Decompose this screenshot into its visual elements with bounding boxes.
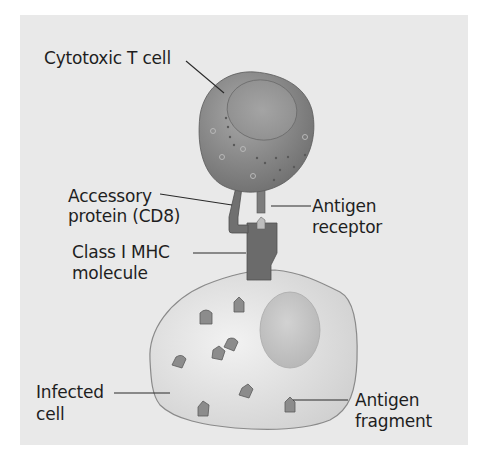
label-receptor-line2: receptor — [312, 217, 382, 238]
infected-cell — [150, 270, 357, 430]
cd8-protein — [229, 187, 248, 233]
infected-cell-nucleus — [260, 292, 320, 368]
label-mhc-line2: molecule — [72, 263, 148, 284]
label-fragment-line1: Antigen — [355, 390, 419, 411]
label-accessory-line1: Accessory — [68, 186, 152, 207]
label-fragment-line2: fragment — [355, 411, 432, 432]
cytotoxic-t-cell — [199, 72, 314, 192]
label-infected-line2: cell — [36, 404, 64, 425]
label-infected-line1: Infected — [36, 382, 104, 403]
label-accessory-line2: protein (CD8) — [68, 206, 180, 227]
label-cytotoxic-t-cell: Cytotoxic T cell — [44, 48, 171, 69]
receptor-bound-antigen — [257, 217, 265, 229]
label-mhc-line1: Class I MHC — [72, 242, 170, 263]
label-receptor-line1: Antigen — [312, 196, 376, 217]
